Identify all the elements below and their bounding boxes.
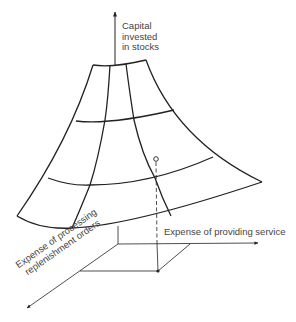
surface-point-marker <box>154 157 159 162</box>
surface-top-edge <box>93 60 146 66</box>
surface-grid-line <box>72 65 110 228</box>
vertical-axis-label-line: in stocks <box>122 42 159 53</box>
surface-grid-line <box>48 157 213 185</box>
vertical-axis-label: Capital invested in stocks <box>122 21 159 53</box>
surface-right-edge <box>146 60 262 182</box>
horizontal-axis-label: Expense of providing service <box>164 227 285 238</box>
vertical-axis-label-line: Capital <box>122 21 159 32</box>
surface-bottom-edge <box>17 182 262 228</box>
surface <box>17 60 262 228</box>
surface-grid-line <box>76 110 174 122</box>
projection-solid-line <box>157 243 158 271</box>
projection-dashed-line <box>156 162 157 243</box>
base-plane-edge <box>158 244 190 271</box>
surface-grid-line <box>126 64 171 216</box>
surface-left-edge <box>17 65 93 216</box>
horizontal-axis <box>118 243 258 244</box>
